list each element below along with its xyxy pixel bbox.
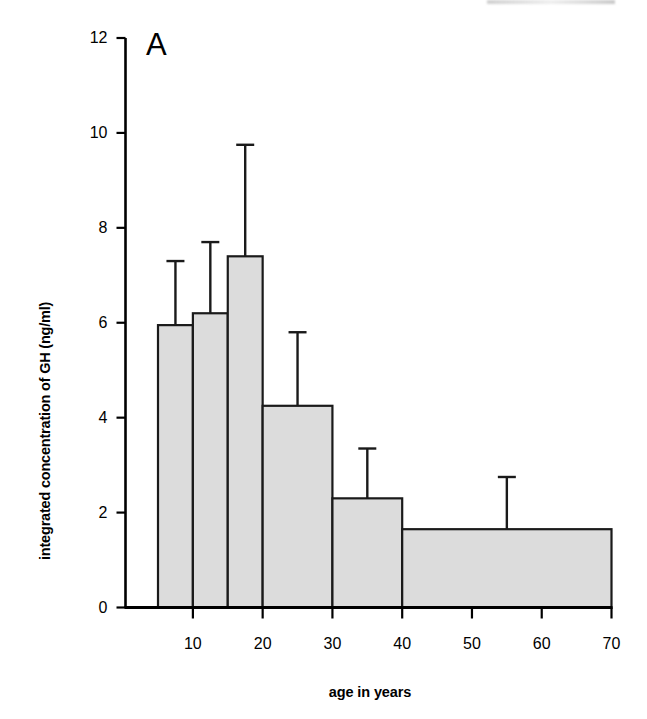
y-tick-label-4: 4 bbox=[68, 410, 108, 426]
y-tick-label-8: 8 bbox=[68, 220, 108, 236]
y-tick-label-2: 2 bbox=[68, 505, 108, 521]
x-tick-label-30: 30 bbox=[312, 636, 352, 652]
figure-panel-a: A integrated concentration of GH (ng/ml)… bbox=[0, 0, 647, 719]
scan-artifact bbox=[487, 0, 615, 4]
y-tick-label-10: 10 bbox=[68, 125, 108, 141]
x-tick-label-60: 60 bbox=[522, 636, 562, 652]
panel-letter: A bbox=[146, 29, 167, 60]
bar-10-15 bbox=[193, 313, 228, 607]
bar-15-20 bbox=[228, 256, 263, 607]
y-tick-label-6: 6 bbox=[68, 315, 108, 331]
x-tick-label-40: 40 bbox=[382, 636, 422, 652]
x-tick-label-20: 20 bbox=[243, 636, 283, 652]
bar-5-10 bbox=[158, 325, 193, 607]
x-tick-label-10: 10 bbox=[173, 636, 213, 652]
bar-30-40 bbox=[332, 498, 402, 607]
x-axis-title: age in years bbox=[125, 684, 615, 700]
bar-40-70 bbox=[402, 529, 611, 607]
bars-group bbox=[158, 256, 612, 607]
y-tick-label-0: 0 bbox=[68, 600, 108, 616]
bar-20-30 bbox=[263, 406, 333, 608]
x-tick-label-50: 50 bbox=[452, 636, 492, 652]
y-axis-title: integrated concentration of GH (ng/ml) bbox=[30, 0, 60, 560]
x-tick-label-70: 70 bbox=[592, 636, 632, 652]
y-tick-label-12: 12 bbox=[68, 30, 108, 46]
